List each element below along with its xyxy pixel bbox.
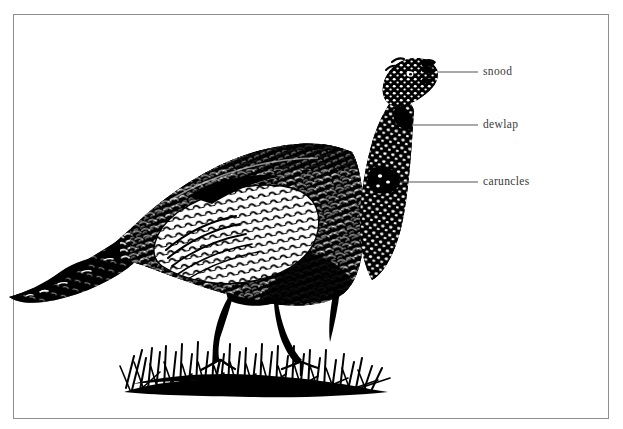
ground-grass bbox=[120, 342, 390, 397]
turkey-head bbox=[378, 54, 444, 110]
annotation-label-caruncles: caruncles bbox=[483, 176, 530, 188]
turkey-illustration bbox=[0, 0, 623, 429]
figure-root: snood dewlap caruncles bbox=[0, 0, 623, 429]
annotation-label-snood: snood bbox=[483, 66, 512, 78]
annotation-label-dewlap: dewlap bbox=[483, 119, 518, 131]
turkey-body bbox=[9, 130, 380, 340]
